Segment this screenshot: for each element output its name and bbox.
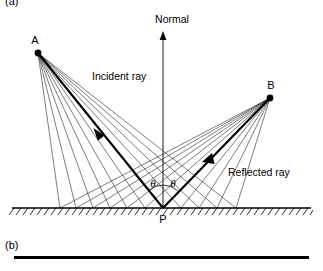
angle-of-reflection-label: θ <box>170 177 176 189</box>
normal-line-group <box>160 31 167 208</box>
point-b-dot <box>267 95 274 102</box>
point-a-dot <box>35 50 42 57</box>
point-b-label: B <box>267 79 274 91</box>
point-a-label: A <box>31 34 39 46</box>
normal-arrowhead-icon <box>160 31 167 40</box>
figure-root: (a) <box>0 0 323 271</box>
angle-of-incidence-label: θ <box>150 177 156 189</box>
reflection-diagram: A B P Normal Incident ray Reflected ray … <box>0 0 323 271</box>
panel-b-label: (b) <box>5 239 18 251</box>
incident-ray-label: Incident ray <box>92 70 147 82</box>
reflected-ray-arrowhead-icon <box>202 153 215 164</box>
normal-label: Normal <box>155 13 189 25</box>
panel-b-divider-bar <box>14 256 309 259</box>
point-p-label: P <box>159 213 166 225</box>
reflected-ray-label: Reflected ray <box>228 166 291 178</box>
reflected-ray-line <box>163 98 270 208</box>
